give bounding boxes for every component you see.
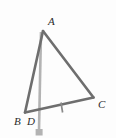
vertex-label-c: C: [98, 99, 105, 110]
vertex-label-b: B: [14, 116, 21, 127]
cevian-arrow-foot-icon: [36, 129, 43, 136]
vertex-label-d: D: [27, 116, 35, 127]
vertex-label-a: A: [48, 16, 55, 27]
geometry-figure: A B D C: [0, 0, 116, 138]
segment-BC: [25, 98, 94, 113]
segment-AC: [43, 31, 94, 98]
